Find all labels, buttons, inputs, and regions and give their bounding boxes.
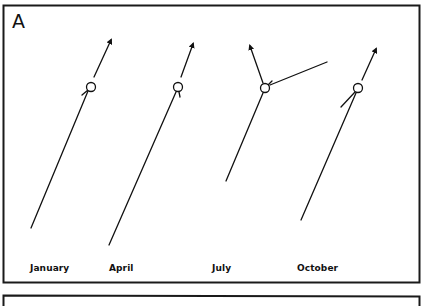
trunk-line: [109, 92, 176, 245]
arrow-line: [250, 46, 263, 83]
month-label-october: October: [297, 263, 338, 273]
branch-line: [270, 62, 327, 85]
configuration-april: [109, 44, 193, 245]
node-circle: [174, 83, 183, 92]
configuration-january: [31, 40, 111, 228]
arrow-line: [181, 44, 193, 77]
panel-label: A: [12, 10, 25, 32]
month-label-january: January: [30, 263, 69, 273]
node-circle: [87, 83, 96, 92]
arrow-line: [362, 49, 376, 80]
arrow-line: [94, 40, 111, 77]
trunk-line: [226, 93, 263, 181]
configuration-october: [301, 49, 376, 220]
panel-b-frame-top: [4, 296, 420, 306]
month-label-april: April: [109, 263, 134, 273]
stub-line: [179, 92, 180, 97]
node-circle: [261, 84, 270, 93]
trunk-line: [301, 93, 356, 220]
configuration-july: [226, 46, 327, 181]
trunk-line: [31, 91, 88, 228]
node-circle: [354, 84, 363, 93]
month-label-july: July: [212, 263, 231, 273]
seasonal-branching-diagram: [0, 0, 423, 306]
